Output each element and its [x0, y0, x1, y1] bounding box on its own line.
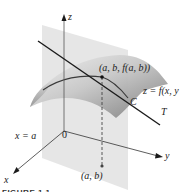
y-axis-arrow-icon: [155, 153, 163, 159]
point-3d-label: (a, b, f(a, b)): [99, 63, 150, 73]
surface-label: z = f(x, y: [143, 86, 179, 96]
point-in-plane: [100, 164, 103, 167]
point-2d-label: (a, b): [81, 171, 103, 181]
curve-label: C: [130, 97, 137, 107]
tangent-label: T: [161, 107, 167, 117]
x-axis-label: x: [4, 175, 8, 185]
plane-label: x = a: [15, 131, 36, 141]
origin-label: 0: [62, 130, 67, 140]
z-axis-arrow-icon: [62, 14, 67, 21]
partial-derivative-diagram: z y x 0 (a, b, f(a, b)) z = f(x, y C T x…: [0, 0, 184, 192]
diagram-graphic: [0, 0, 184, 192]
x-axis-arrow-icon: [13, 167, 20, 174]
figure-caption: FIGURE 1.1: [2, 188, 51, 192]
y-axis-label: y: [165, 151, 169, 161]
z-axis-label: z: [68, 12, 72, 22]
point-on-surface: [100, 75, 104, 79]
